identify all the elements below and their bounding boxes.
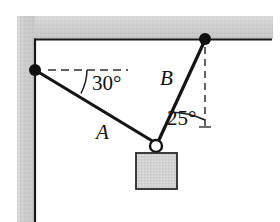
angle-a-arc bbox=[81, 70, 87, 94]
cable-b-label: B bbox=[160, 68, 173, 89]
ceiling-anchor-pin-icon bbox=[199, 33, 211, 45]
cable-a-label: A bbox=[96, 122, 109, 143]
wall-anchor-pin-icon bbox=[29, 64, 41, 76]
angle-b-label: 25° bbox=[167, 108, 196, 129]
angle-a-label: 30° bbox=[92, 73, 121, 94]
suspended-block bbox=[136, 153, 177, 189]
figure-diagram bbox=[0, 0, 280, 222]
ceiling-hatch-texture bbox=[17, 16, 273, 39]
wall-hatch-texture bbox=[17, 16, 35, 222]
connecting-ring-icon bbox=[150, 140, 162, 152]
figure-canvas: A B 30° 25° bbox=[0, 0, 280, 222]
